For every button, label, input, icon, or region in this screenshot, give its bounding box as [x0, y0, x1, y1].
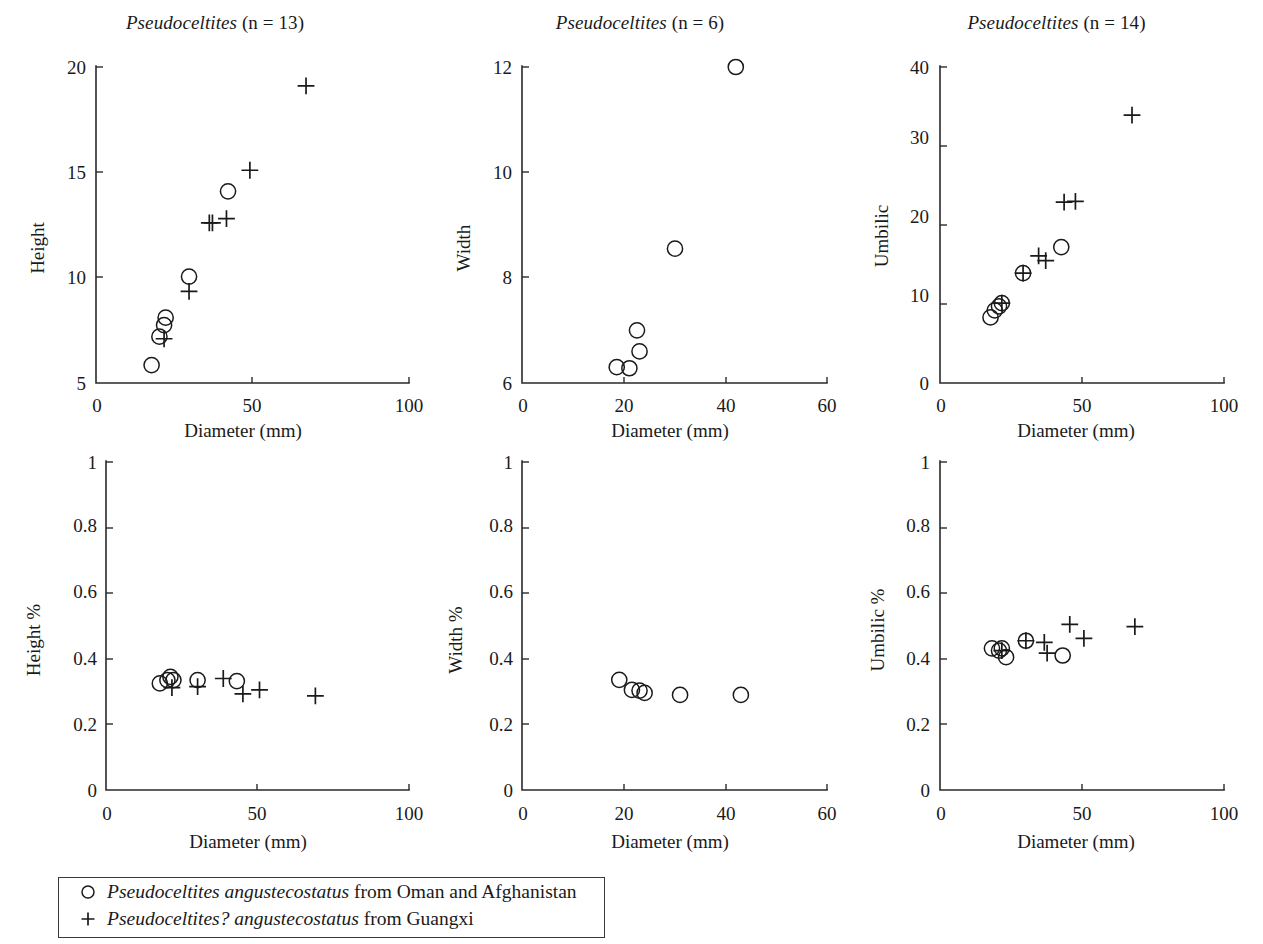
panel-title-umbilic: Pseudoceltites (n = 14): [850, 12, 1263, 34]
ytick-label: 15: [67, 162, 86, 183]
series-markers: [984, 616, 1143, 665]
open-circle-icon: [69, 884, 107, 900]
xtick-label: 50: [1073, 803, 1092, 824]
yaxis-title: Height %: [23, 604, 44, 676]
data-point-plus: [251, 682, 268, 699]
ytick-label: 0.8: [906, 515, 930, 536]
data-point-plus: [1126, 618, 1143, 635]
data-point-circle: [181, 269, 196, 284]
yaxis-title: Width %: [445, 606, 466, 673]
legend-suffix: from Oman and Afghanistan: [349, 881, 576, 902]
panel-umbilic-vs-diameter: Pseudoceltites (n = 14) 40 30 20 10 0 0 …: [850, 0, 1263, 440]
series-markers: [612, 672, 749, 702]
yaxis-title: Umbilic: [871, 205, 892, 267]
panel-height-percent-vs-diameter: 1 0.8 0.6 0.4 0.2 0 0 50 100 Height % Di…: [0, 440, 430, 860]
series-markers: [152, 669, 324, 704]
panel-title-height: Pseudoceltites (n = 13): [0, 12, 430, 34]
ytick-label: 8: [503, 267, 513, 288]
panel-width-vs-diameter: Pseudoceltites (n = 6) 12 10 8 6 0 20 40…: [430, 0, 850, 440]
xtick-label: 0: [92, 395, 102, 416]
plot-area-width: 12 10 8 6 0 20 40 60 Width Diameter (mm): [430, 0, 850, 440]
xtick-label: 50: [1073, 395, 1092, 416]
ytick-label: 0.8: [73, 515, 97, 536]
ytick-label: 0.2: [73, 714, 97, 735]
data-point-circle: [733, 687, 748, 702]
data-point-circle: [220, 184, 235, 199]
ytick-label: 0.6: [906, 581, 930, 602]
xtick-label: 40: [717, 395, 736, 416]
xaxis-title: Diameter (mm): [184, 420, 302, 442]
xaxis-title: Diameter (mm): [611, 831, 729, 853]
xtick-label: 50: [243, 395, 262, 416]
ytick-label: 10: [493, 162, 512, 183]
data-point-circle: [612, 672, 627, 687]
plot-area-umbilic-percent: 1 0.8 0.6 0.4 0.2 0 0 50 100 Umbilic % D…: [850, 440, 1263, 860]
ytick-label: 1: [504, 452, 514, 473]
xaxis-title: Diameter (mm): [1017, 420, 1135, 442]
ytick-label: 0: [88, 780, 98, 801]
data-point-plus: [218, 210, 235, 227]
title-n: (n = 14): [1083, 12, 1145, 33]
title-genus: Pseudoceltites: [126, 12, 237, 33]
legend-label: Pseudoceltites angustecostatus from Oman…: [107, 881, 577, 903]
ytick-label: 0.4: [906, 648, 930, 669]
data-point-plus: [1124, 107, 1141, 124]
panel-umbilic-percent-vs-diameter: 1 0.8 0.6 0.4 0.2 0 0 50 100 Umbilic % D…: [850, 440, 1263, 860]
data-point-circle: [1054, 240, 1069, 255]
ytick-label: 0: [921, 780, 931, 801]
plot-area-height-percent: 1 0.8 0.6 0.4 0.2 0 0 50 100 Height % Di…: [0, 440, 430, 860]
data-point-plus: [1036, 634, 1053, 651]
ytick-label: 40: [910, 57, 929, 78]
legend: Pseudoceltites angustecostatus from Oman…: [58, 877, 605, 938]
ytick-label: 0.6: [489, 581, 513, 602]
data-point-plus: [181, 283, 198, 300]
data-point-plus: [1037, 252, 1054, 269]
ytick-label: 30: [910, 127, 929, 148]
data-point-plus: [1061, 616, 1078, 633]
legend-taxon: Pseudoceltites angustecostatus: [107, 881, 349, 902]
xtick-label: 20: [615, 395, 634, 416]
figure-root: Pseudoceltites (n = 13) 20 15 10 5 0 50 …: [0, 0, 1263, 944]
data-point-plus: [1030, 247, 1047, 264]
data-point-plus: [241, 162, 258, 179]
ytick-label: 20: [67, 57, 86, 78]
data-point-plus: [1039, 645, 1056, 662]
ytick-label: 6: [503, 373, 513, 394]
panel-title-width: Pseudoceltites (n = 6): [430, 12, 850, 34]
xtick-label: 60: [818, 803, 837, 824]
panel-height-vs-diameter: Pseudoceltites (n = 13) 20 15 10 5 0 50 …: [0, 0, 430, 440]
data-point-plus: [204, 214, 221, 231]
ytick-label: 0: [920, 373, 930, 394]
data-point-circle: [728, 59, 743, 74]
data-point-circle: [632, 344, 647, 359]
data-point-circle: [629, 323, 644, 338]
legend-taxon: Pseudoceltites? angustecostatus: [107, 908, 359, 929]
legend-row: Pseudoceltites angustecostatus from Oman…: [59, 878, 604, 905]
ytick-label: 0.6: [73, 581, 97, 602]
data-point-circle: [991, 299, 1006, 314]
ytick-label: 20: [910, 206, 929, 227]
yaxis-title: Width: [453, 224, 474, 271]
data-point-plus: [215, 670, 232, 687]
xtick-label: 60: [818, 395, 837, 416]
series-markers: [609, 59, 743, 375]
series-markers: [144, 78, 314, 373]
ytick-label: 10: [910, 285, 929, 306]
plot-area-width-percent: 1 0.8 0.6 0.4 0.2 0 0 20 40 60 Width % D…: [430, 440, 850, 860]
data-point-circle: [1055, 648, 1070, 663]
legend-row: Pseudoceltites? angustecostatus from Gua…: [59, 905, 604, 932]
data-point-circle: [163, 669, 178, 684]
plus-icon: [69, 911, 107, 927]
data-point-circle: [672, 687, 687, 702]
ytick-label: 1: [921, 452, 931, 473]
ytick-label: 12: [493, 57, 512, 78]
title-genus: Pseudoceltites: [967, 12, 1078, 33]
data-point-plus: [1076, 630, 1093, 647]
ytick-label: 0: [504, 780, 514, 801]
xtick-label: 0: [518, 803, 528, 824]
plot-area-umbilic: 40 30 20 10 0 0 50 100 Umbilic Diameter …: [850, 0, 1263, 440]
title-genus: Pseudoceltites: [556, 12, 667, 33]
panel-width-percent-vs-diameter: 1 0.8 0.6 0.4 0.2 0 0 20 40 60 Width % D…: [430, 440, 850, 860]
xaxis-title: Diameter (mm): [1017, 831, 1135, 853]
xtick-label: 0: [102, 803, 112, 824]
